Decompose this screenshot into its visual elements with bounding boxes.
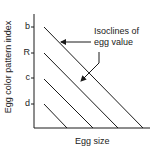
isocline-4 (44, 104, 67, 128)
tick-label-b: b (20, 21, 30, 31)
tick-label-d: d (20, 98, 30, 108)
arrow-to-isocline-2 (81, 52, 99, 81)
annotation-line-1: Isoclines of (94, 26, 139, 36)
tick-label-c: c (20, 72, 30, 82)
y-axis-label: Egg color pattern index (3, 12, 13, 122)
tick-label-R: R (20, 47, 30, 57)
isocline-3 (44, 79, 93, 128)
annotation-line-2: egg value (94, 37, 133, 47)
x-axis-label: Egg size (75, 136, 110, 146)
